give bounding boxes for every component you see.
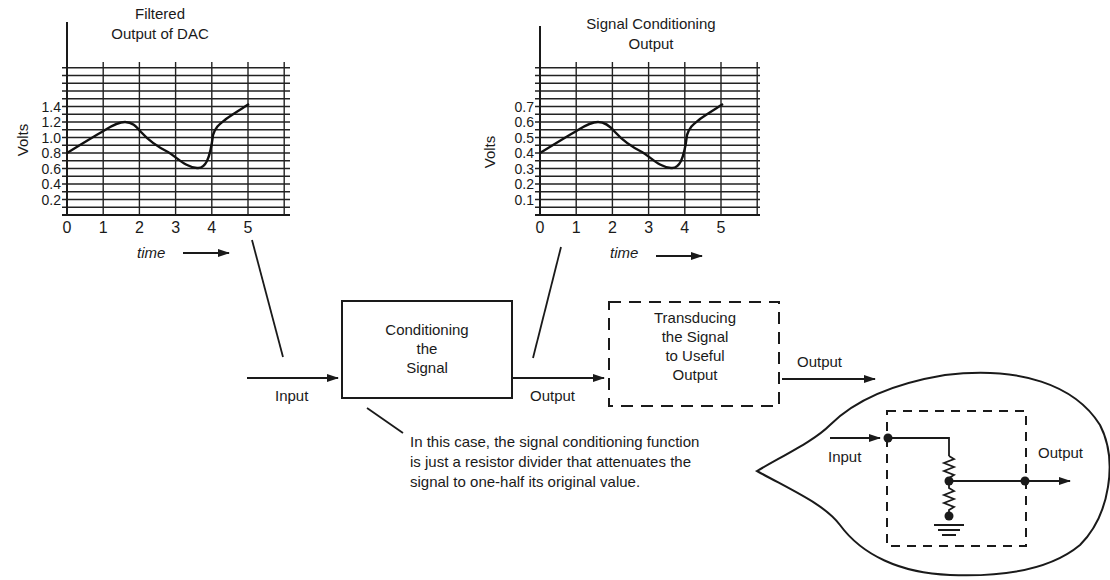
chart2-grid xyxy=(535,62,760,215)
svg-text:1.4: 1.4 xyxy=(42,99,62,115)
svg-text:1.2: 1.2 xyxy=(42,114,62,130)
diagram-canvas: 0.20.40.60.81.01.21.4 012345 Volts Filte… xyxy=(0,0,1110,580)
leader-line-chart1-to-input xyxy=(252,240,283,357)
svg-text:0: 0 xyxy=(63,219,72,236)
output-node-dot xyxy=(1021,477,1030,486)
callout-line-2: is just a resistor divider that attenuat… xyxy=(410,452,699,472)
svg-text:1: 1 xyxy=(99,219,108,236)
chart2-y-axis-label: Volts xyxy=(481,136,498,169)
svg-text:3: 3 xyxy=(644,219,653,236)
chart2-y-tick-labels: 0.10.20.30.40.50.60.7 xyxy=(515,99,535,208)
output-label-2: Output xyxy=(797,352,842,371)
input-node-dot xyxy=(884,434,893,443)
callout-line-3: signal to one-half its original value. xyxy=(410,472,699,492)
svg-text:2: 2 xyxy=(135,219,144,236)
chart2-x-axis-label: time xyxy=(610,244,638,261)
chart1-title-line1: Filtered xyxy=(135,5,185,22)
conditioning-block-label: Conditioning the Signal xyxy=(342,320,512,377)
transducing-block-label: Transducing the Signal to Useful Output xyxy=(609,308,781,384)
output-label-1: Output xyxy=(530,386,575,405)
chart2-x-tick-labels: 012345 xyxy=(536,219,726,236)
svg-text:0.2: 0.2 xyxy=(515,176,535,192)
chart2-title-line2: Output xyxy=(628,35,674,52)
transducing-line-2: the Signal xyxy=(609,327,781,346)
chart1-grid xyxy=(62,62,290,215)
transducing-line-1: Transducing xyxy=(609,308,781,327)
circuit-callout-bubble: Input Output xyxy=(757,373,1110,576)
svg-text:0.8: 0.8 xyxy=(42,145,62,161)
chart1-y-axis-label: Volts xyxy=(14,124,31,157)
svg-text:2: 2 xyxy=(608,219,617,236)
svg-text:0.2: 0.2 xyxy=(42,192,62,208)
svg-text:5: 5 xyxy=(717,219,726,236)
chart1-x-axis-label: time xyxy=(137,244,165,261)
conditioning-line-1: Conditioning xyxy=(342,320,512,339)
svg-text:0.5: 0.5 xyxy=(515,130,535,146)
circuit-output-label: Output xyxy=(1038,444,1084,461)
leader-line-chart2-to-output xyxy=(533,247,561,358)
svg-text:0.1: 0.1 xyxy=(515,192,535,208)
chart1-y-tick-labels: 0.20.40.60.81.01.21.4 xyxy=(42,99,62,208)
svg-text:3: 3 xyxy=(171,219,180,236)
svg-text:0: 0 xyxy=(536,219,545,236)
chart2-title-line1: Signal Conditioning xyxy=(586,15,715,32)
svg-text:0.6: 0.6 xyxy=(42,161,62,177)
chart-signal-conditioning-output: 0.10.20.30.40.50.60.7 012345 Volts Signa… xyxy=(481,15,760,261)
svg-text:1.0: 1.0 xyxy=(42,130,62,146)
svg-text:0.7: 0.7 xyxy=(515,99,535,115)
callout-pointer-line xyxy=(367,408,403,433)
transducing-line-3: to Useful xyxy=(609,346,781,365)
svg-text:1: 1 xyxy=(572,219,581,236)
svg-text:5: 5 xyxy=(244,219,253,236)
conditioning-line-3: Signal xyxy=(342,358,512,377)
chart1-x-tick-labels: 012345 xyxy=(63,219,253,236)
divider-node-dot xyxy=(945,477,954,486)
chart-filtered-output-of-dac: 0.20.40.60.81.01.21.4 012345 Volts Filte… xyxy=(14,5,290,261)
transducing-line-4: Output xyxy=(609,365,781,384)
callout-note: In this case, the signal conditioning fu… xyxy=(410,432,699,492)
callout-line-1: In this case, the signal conditioning fu… xyxy=(410,432,699,452)
chart1-title-line2: Output of DAC xyxy=(111,25,209,42)
bubble-outline xyxy=(757,373,1110,576)
svg-text:0.6: 0.6 xyxy=(515,114,535,130)
svg-text:0.3: 0.3 xyxy=(515,161,535,177)
svg-text:0.4: 0.4 xyxy=(515,145,535,161)
conditioning-line-2: the xyxy=(342,339,512,358)
svg-text:0.4: 0.4 xyxy=(42,176,62,192)
svg-text:4: 4 xyxy=(680,219,689,236)
circuit-input-label: Input xyxy=(828,448,862,465)
svg-text:4: 4 xyxy=(207,219,216,236)
input-label: Input xyxy=(275,386,308,405)
ground-node-dot xyxy=(945,512,954,521)
